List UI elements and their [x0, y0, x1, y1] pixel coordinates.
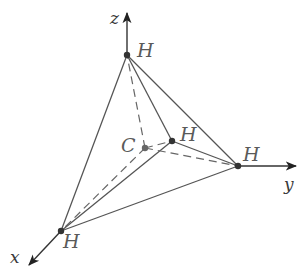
bond-c-right — [145, 148, 238, 166]
carbon-bonds — [61, 55, 238, 231]
edge-top-inner — [127, 55, 172, 141]
atom-dot-right — [235, 163, 241, 169]
z-axis-label: z — [110, 10, 119, 27]
diagram-canvas — [0, 0, 308, 278]
atom-label-inner-h: H — [180, 125, 197, 144]
atom-dot-inner — [169, 138, 175, 144]
atom-label-right-h: H — [243, 145, 260, 164]
atom-dot-top — [124, 52, 130, 58]
atom-label-bottom-h: H — [63, 232, 80, 251]
edge-bottom-right — [61, 166, 238, 231]
atom-label-carbon: C — [121, 136, 136, 155]
tetrahedron-diagram: z y x H H H H C — [0, 0, 308, 278]
x-axis — [29, 231, 61, 265]
bond-c-bottom — [61, 148, 145, 231]
x-axis-label: x — [10, 249, 20, 266]
atom-label-top-h: H — [137, 41, 154, 60]
atom-dot-center — [142, 145, 148, 151]
y-axis-label: y — [284, 176, 294, 193]
